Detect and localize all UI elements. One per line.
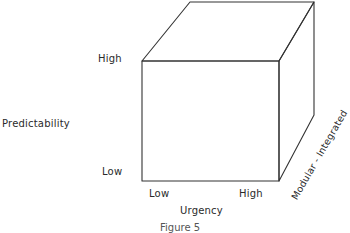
cube-side-face [279, 2, 314, 181]
predictability-low-label: Low [102, 166, 122, 178]
urgency-low-label: Low [149, 188, 169, 200]
cube-top-face [142, 2, 314, 61]
predictability-axis-label: Predictability [2, 118, 70, 130]
cube-front-face [142, 61, 279, 181]
figure-caption: Figure 5 [160, 222, 200, 233]
urgency-axis-label: Urgency [180, 205, 223, 217]
predictability-high-label: High [98, 53, 122, 65]
urgency-high-label: High [239, 188, 263, 200]
